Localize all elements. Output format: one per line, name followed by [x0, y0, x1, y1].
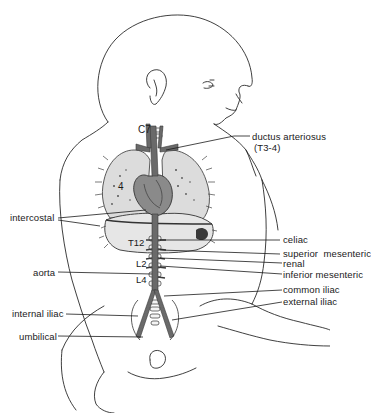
label-inferior-mesenteric: inferior mesenteric: [283, 270, 363, 280]
label-intercostal: intercostal: [10, 213, 54, 223]
lung-marker: 4: [118, 182, 124, 192]
vertebra-label-l2: L2: [136, 259, 147, 269]
label-ductus-arteriosus: ductus arteriosus: [252, 132, 326, 142]
vertebra-label-c7: C7: [138, 125, 151, 135]
vertebra-label-l4: L4: [136, 275, 147, 285]
label-umbilical: umbilical: [19, 332, 57, 342]
label-internal-iliac: internal iliac: [12, 309, 64, 319]
label-celiac: celiac: [283, 235, 308, 245]
label-external-iliac: external iliac: [283, 297, 337, 307]
label-common-iliac: common iliac: [283, 285, 340, 295]
label-aorta: aorta: [33, 268, 55, 278]
label-ductus-arteriosus-level: (T3-4): [254, 143, 280, 153]
vertebra-label-t12: T12: [128, 238, 144, 248]
head-outline: [98, 15, 253, 125]
label-renal: renal: [283, 259, 305, 269]
